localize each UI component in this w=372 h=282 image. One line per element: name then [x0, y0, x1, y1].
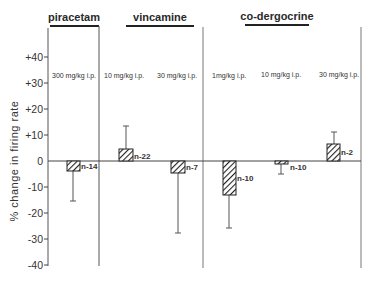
bar-vincamine-10: n-22: [119, 126, 151, 161]
group-label-vincamine: vincamine: [133, 11, 187, 23]
bar-co-dergocrine-30: n-2: [327, 132, 354, 161]
chart: piracetam vincamine co-dergocrine +40 +3…: [0, 0, 372, 282]
svg-text:+20: +20: [25, 103, 43, 115]
svg-text:n-7: n-7: [186, 163, 199, 172]
bar-vincamine-30: n-7: [171, 161, 199, 233]
svg-text:+10: +10: [25, 129, 43, 141]
dose-label: 30 mg/kg i.p.: [157, 72, 197, 80]
bar-piracetam-300: n-14: [67, 161, 98, 201]
dose-label: 10 mg/kg i.p.: [104, 72, 144, 80]
svg-text:-30: -30: [28, 233, 43, 245]
svg-text:-40: -40: [28, 259, 43, 271]
svg-text:n-14: n-14: [81, 162, 98, 171]
dose-label: 30 mg/kg i.p.: [319, 71, 359, 79]
y-axis-label: % change in firing rate: [8, 101, 20, 222]
y-ticks: +40 +30 +20 +10 0 -10 -20 -30 -40: [25, 51, 48, 271]
dose-label: 10 mg/kg i.p.: [261, 71, 301, 79]
svg-text:+30: +30: [25, 77, 43, 89]
svg-text:-10: -10: [28, 181, 43, 193]
group-label-piracetam: piracetam: [48, 11, 100, 23]
svg-text:n-10: n-10: [237, 174, 254, 183]
svg-text:n-22: n-22: [134, 152, 151, 161]
group-label-co-dergocrine: co-dergocrine: [240, 10, 313, 22]
svg-text:+40: +40: [25, 51, 43, 63]
bar-co-dergocrine-10: n-10: [275, 161, 307, 174]
svg-text:n-10: n-10: [290, 163, 307, 172]
dose-label: 1mg/kg i.p.: [212, 72, 246, 80]
svg-text:n-2: n-2: [341, 148, 354, 157]
dose-label: 300 mg/kg i.p.: [52, 72, 96, 80]
svg-text:-20: -20: [28, 207, 43, 219]
svg-text:0: 0: [37, 155, 43, 167]
bar-co-dergocrine-1: n-10: [223, 161, 254, 228]
